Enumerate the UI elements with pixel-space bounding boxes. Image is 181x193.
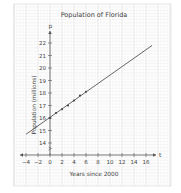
y-tick-label: 21 <box>39 53 46 59</box>
x-tick-label: 4 <box>72 159 76 165</box>
y-tick-label: 17 <box>39 103 46 109</box>
x-tick-label: −4 <box>22 159 31 165</box>
x-tick-label: 10 <box>107 159 114 165</box>
y-tick-label: 14 <box>39 140 46 146</box>
x-tick-label: 8 <box>96 159 100 165</box>
data-point <box>67 104 69 106</box>
x-tick-label: 2 <box>60 159 64 165</box>
y-tick-label: 15 <box>39 128 46 134</box>
data-point <box>49 117 51 119</box>
y-tick-label: 20 <box>39 65 46 71</box>
x-tick-label: 12 <box>119 159 126 165</box>
y-tick-label: 18 <box>39 90 46 96</box>
x-tick-label: 6 <box>84 159 88 165</box>
data-point <box>85 91 87 93</box>
chart-title: Population of Florida <box>61 11 128 19</box>
chart-container: Population of Florida −4−202468101214161… <box>0 0 181 193</box>
x-tick-label: 0 <box>48 159 52 165</box>
data-point <box>61 108 63 110</box>
x-tick-label: 16 <box>143 159 150 165</box>
data-point <box>79 94 81 96</box>
y-tick-label: 19 <box>39 78 46 84</box>
chart-svg: Population of Florida −4−202468101214161… <box>0 0 181 193</box>
data-point <box>55 112 57 114</box>
x-tick-label: −2 <box>34 159 42 165</box>
x-tick-label: 14 <box>131 159 138 165</box>
y-axis-label: Population (millions) <box>31 75 38 134</box>
y-variable-label: p <box>49 23 53 30</box>
data-point <box>73 99 75 101</box>
x-axis-label: Years since 2000 <box>69 171 119 177</box>
y-tick-label: 22 <box>39 40 46 46</box>
